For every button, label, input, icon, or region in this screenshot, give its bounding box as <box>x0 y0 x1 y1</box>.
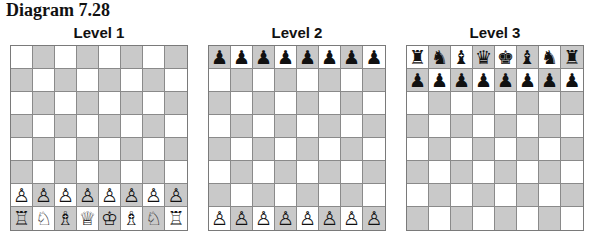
square-with-piece: ♟ <box>407 69 429 92</box>
board-square <box>341 69 363 92</box>
board-square <box>77 161 99 184</box>
board-square <box>275 184 297 207</box>
board-square <box>473 184 495 207</box>
square-with-piece: ♙ <box>77 184 99 207</box>
board-square <box>99 69 121 92</box>
board-square <box>297 92 319 115</box>
board-square <box>319 115 341 138</box>
board-square <box>11 69 33 92</box>
board-square <box>561 207 583 230</box>
square-with-piece: ♟ <box>473 69 495 92</box>
board-square <box>429 115 451 138</box>
board-square <box>319 161 341 184</box>
board-square <box>561 115 583 138</box>
board-square <box>429 138 451 161</box>
square-with-piece: ♙ <box>231 207 253 230</box>
board-square <box>209 92 231 115</box>
board-square <box>407 92 429 115</box>
board-square <box>297 161 319 184</box>
square-with-piece: ♟ <box>517 69 539 92</box>
board-square <box>451 138 473 161</box>
board-square <box>11 46 33 69</box>
square-with-piece: ♞ <box>539 46 561 69</box>
board-square <box>33 138 55 161</box>
board-square <box>473 138 495 161</box>
level-1-board: ♙♙♙♙♙♙♙♙♖♘♗♕♔♗♘♖ <box>10 45 188 231</box>
board-square <box>121 161 143 184</box>
board-square <box>143 161 165 184</box>
board-square <box>231 138 253 161</box>
square-with-piece: ♙ <box>55 184 77 207</box>
board-square <box>77 46 99 69</box>
level-3-panel: Level 3 ♜♞♝♛♚♝♞♜♟♟♟♟♟♟♟♟ <box>406 22 584 231</box>
board-square <box>55 46 77 69</box>
level-3-board: ♜♞♝♛♚♝♞♜♟♟♟♟♟♟♟♟ <box>406 45 584 231</box>
square-with-piece: ♙ <box>363 207 385 230</box>
square-with-piece: ♚ <box>495 46 517 69</box>
board-square <box>407 138 429 161</box>
square-with-piece: ♟ <box>539 69 561 92</box>
board-square <box>561 161 583 184</box>
board-square <box>341 184 363 207</box>
square-with-piece: ♙ <box>209 207 231 230</box>
level-2-label: Level 2 <box>208 22 386 45</box>
board-square <box>451 92 473 115</box>
board-square <box>407 115 429 138</box>
board-square <box>517 161 539 184</box>
level-1-panel: Level 1 ♙♙♙♙♙♙♙♙♖♘♗♕♔♗♘♖ <box>10 22 188 231</box>
board-square <box>561 92 583 115</box>
board-square <box>495 138 517 161</box>
level-3-label: Level 3 <box>406 22 584 45</box>
square-with-piece: ♗ <box>55 207 77 230</box>
board-square <box>253 161 275 184</box>
square-with-piece: ♜ <box>561 46 583 69</box>
board-square <box>33 115 55 138</box>
board-square <box>209 184 231 207</box>
board-square <box>407 161 429 184</box>
square-with-piece: ♟ <box>231 46 253 69</box>
board-square <box>143 115 165 138</box>
board-square <box>231 184 253 207</box>
board-square <box>297 69 319 92</box>
board-square <box>429 92 451 115</box>
square-with-piece: ♙ <box>33 184 55 207</box>
square-with-piece: ♙ <box>165 184 187 207</box>
board-square <box>275 161 297 184</box>
board-square <box>77 115 99 138</box>
board-square <box>231 92 253 115</box>
level-2-board: ♟♟♟♟♟♟♟♟♙♙♙♙♙♙♙♙ <box>208 45 386 231</box>
board-square <box>341 138 363 161</box>
board-square <box>99 46 121 69</box>
board-square <box>209 69 231 92</box>
board-square <box>231 69 253 92</box>
square-with-piece: ♙ <box>121 184 143 207</box>
board-square <box>11 138 33 161</box>
board-square <box>143 138 165 161</box>
board-square <box>209 115 231 138</box>
square-with-piece: ♟ <box>209 46 231 69</box>
board-square <box>319 138 341 161</box>
board-square <box>55 138 77 161</box>
board-square <box>165 69 187 92</box>
board-square <box>451 161 473 184</box>
square-with-piece: ♜ <box>407 46 429 69</box>
board-square <box>33 46 55 69</box>
board-square <box>495 161 517 184</box>
board-square <box>11 161 33 184</box>
board-square <box>429 184 451 207</box>
square-with-piece: ♟ <box>561 69 583 92</box>
board-square <box>473 115 495 138</box>
square-with-piece: ♙ <box>275 207 297 230</box>
board-square <box>539 138 561 161</box>
board-square <box>363 184 385 207</box>
board-square <box>341 115 363 138</box>
board-square <box>11 92 33 115</box>
board-square <box>297 184 319 207</box>
board-square <box>517 207 539 230</box>
board-square <box>363 161 385 184</box>
square-with-piece: ♙ <box>319 207 341 230</box>
square-with-piece: ♕ <box>77 207 99 230</box>
square-with-piece: ♟ <box>341 46 363 69</box>
board-square <box>143 92 165 115</box>
board-square <box>55 115 77 138</box>
